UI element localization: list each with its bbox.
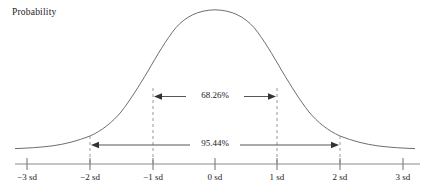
arrow-95-right-head — [331, 142, 339, 148]
arrow-68-left-head — [154, 93, 162, 99]
normal-curve-path — [15, 10, 415, 149]
annotation-95-percent: 95.44% — [201, 138, 229, 148]
annotation-68-percent: 68.26% — [201, 90, 229, 100]
arrow-95-left-head — [91, 142, 99, 148]
x-tick-label-plus-3sd: 3 sd — [396, 172, 411, 182]
x-tick-label-plus-2sd: 2 sd — [333, 172, 348, 182]
y-axis-label: Probability — [12, 7, 56, 17]
x-tick-label-plus-1sd: 1 sd — [270, 172, 285, 182]
arrow-68-right-head — [268, 93, 276, 99]
normal-distribution-figure: Probability 68.26% 95.44% — [0, 0, 430, 191]
x-tick-label-minus-2sd: −2 sd — [80, 172, 100, 182]
x-tick-label-minus-1sd: −1 sd — [143, 172, 163, 182]
x-tick-label-minus-3sd: −3 sd — [17, 172, 37, 182]
x-tick-label-0sd: 0 sd — [208, 172, 223, 182]
